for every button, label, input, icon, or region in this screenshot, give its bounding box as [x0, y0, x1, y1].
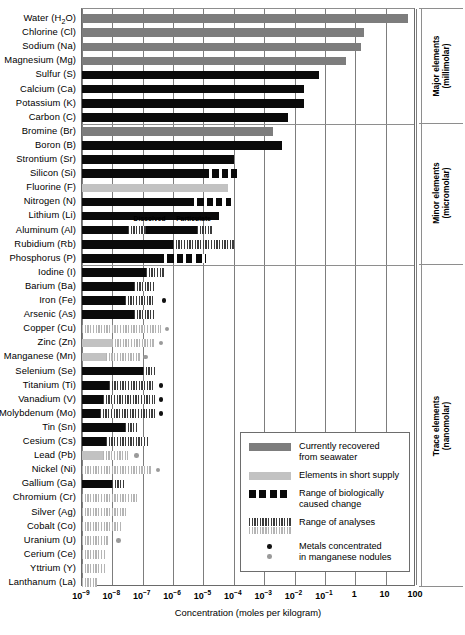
- x-axis-title: Concentration (moles per kilogram): [81, 607, 415, 618]
- y-axis-label: Iron (Fe): [39, 292, 76, 307]
- bar-segment: [203, 169, 236, 178]
- y-axis-label: Cesium (Cs): [23, 433, 76, 448]
- bar-segment: [82, 409, 100, 418]
- side-bracket-rule: [419, 8, 463, 9]
- chart-row: [82, 25, 414, 40]
- bar-segment: [82, 184, 228, 193]
- bar-segment: [82, 353, 106, 362]
- bar-segment: [82, 155, 234, 164]
- x-tick-label: 10−7: [133, 589, 151, 601]
- bar-segment: [128, 226, 146, 235]
- bar-segment: [134, 282, 155, 291]
- legend-swatch: [249, 472, 291, 480]
- chart-row: [82, 237, 414, 252]
- chart-row: [82, 335, 414, 350]
- side-category-text: Trace elements(nanomolar): [431, 396, 451, 457]
- side-category-text: Major elements(millimolar): [431, 36, 451, 97]
- y-axis-label: Chlorine (Cl): [22, 24, 76, 39]
- gridline: [416, 9, 417, 585]
- nodule-marker: [156, 468, 161, 473]
- y-axis-label: Sodium (Na): [22, 38, 76, 53]
- y-axis-label: Lanthanum (La): [8, 574, 76, 589]
- chart-row: [82, 39, 414, 54]
- y-axis-label: Arsenic (As): [24, 306, 76, 321]
- bar-segment: [100, 409, 155, 418]
- legend-item: Range of biologicallycaused change: [249, 488, 403, 510]
- bar-segment: [82, 71, 319, 80]
- side-bracket-rule: [419, 264, 463, 265]
- x-tick-label: 10−6: [163, 589, 181, 601]
- chart-row: [82, 251, 414, 266]
- y-axis-label: Yttrium (Y): [30, 560, 76, 575]
- chart-row: [82, 293, 414, 308]
- bar-segment: [146, 268, 164, 277]
- bar-segment: [82, 14, 408, 23]
- bar-segment: [82, 578, 97, 587]
- y-axis-label: Water (H2O): [23, 10, 76, 25]
- y-axis-label: Nickel (Ni): [32, 461, 76, 476]
- y-axis-label: Calcium (Ca): [20, 81, 76, 96]
- bar-segment: [82, 550, 106, 559]
- bar-segment: [82, 268, 146, 277]
- bar-segment: [82, 310, 134, 319]
- bar-segment: [82, 296, 125, 305]
- x-tick-label: 10: [380, 589, 390, 599]
- side-category-text: Minor elements(micromolar): [431, 163, 451, 224]
- legend-dot-swatch: [249, 541, 291, 561]
- bar-segment: [82, 169, 203, 178]
- bar-segment: [82, 57, 346, 66]
- nodule-marker: [143, 355, 148, 360]
- bar-segment: [82, 437, 106, 446]
- nodule-marker: [134, 453, 139, 458]
- chart-legend: Currently recoveredfrom seawaterElements…: [240, 432, 410, 572]
- y-axis-label: Fluorine (F): [26, 179, 76, 194]
- legend-swatch: [249, 443, 291, 451]
- legend-swatch: [249, 518, 291, 534]
- chart-row: [82, 138, 414, 153]
- bar-segment: [82, 141, 282, 150]
- y-axis-label: Gallium (Ga): [22, 475, 76, 490]
- bar-segment: [82, 85, 304, 94]
- chart-row: [82, 110, 414, 125]
- x-tick-label: 10−1: [315, 589, 333, 601]
- legend-label: Currently recoveredfrom seawater: [299, 441, 380, 463]
- chart-row: [82, 321, 414, 336]
- bar-segment: [82, 43, 361, 52]
- chart-row: [82, 11, 414, 26]
- y-axis-label: Selenium (Se): [15, 363, 76, 378]
- legend-item: Range of analyses: [249, 517, 403, 534]
- y-axis-label: Iodine (I): [38, 264, 76, 279]
- chart-row: [82, 378, 414, 393]
- y-axis-label: Carbon (C): [29, 109, 76, 124]
- legend-label: Range of analyses: [299, 517, 375, 528]
- bar-segment: [173, 240, 234, 249]
- y-axis-label: Phosphorus (P): [9, 250, 76, 265]
- y-axis-label: Uranium (U): [24, 532, 76, 547]
- bar-segment: [143, 367, 155, 376]
- bar-segment: [112, 339, 155, 348]
- x-tick-label: 10−3: [254, 589, 272, 601]
- bar-segment: [158, 254, 207, 263]
- legend-item: Elements in short supply: [249, 470, 403, 481]
- y-axis-label: Rubidium (Rb): [14, 236, 76, 251]
- bar-segment: [106, 437, 149, 446]
- chart-row: [82, 307, 414, 322]
- y-axis-label: Silver (Ag): [31, 504, 76, 519]
- nodule-marker: [162, 298, 167, 303]
- y-axis-label: Vanadium (V): [18, 391, 76, 406]
- bar-segment: [82, 254, 158, 263]
- y-axis-label: Copper (Cu): [23, 320, 76, 335]
- chart-row: [82, 208, 414, 223]
- chart-row: [82, 53, 414, 68]
- side-category: Minor elements(micromolar): [419, 123, 463, 264]
- chart-row: [82, 392, 414, 407]
- nodule-marker: [159, 341, 164, 346]
- chart-row: [82, 575, 414, 590]
- side-bracket-rule: [419, 586, 463, 587]
- y-axis-label: Barium (Ba): [25, 278, 76, 293]
- nodule-marker: [159, 383, 164, 388]
- bar-segment: [82, 480, 112, 489]
- chart-row: [82, 82, 414, 97]
- y-axis-label: Cerium (Ce): [24, 546, 76, 561]
- x-tick-label: 10−4: [224, 589, 242, 601]
